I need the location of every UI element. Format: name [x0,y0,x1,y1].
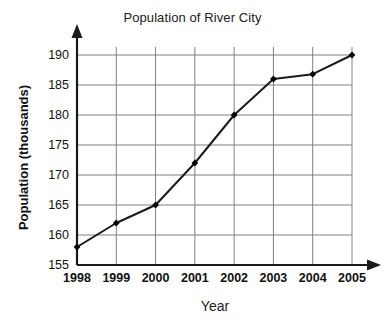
data-point-marker [349,52,356,59]
chart-container: Population of River City Population (tho… [0,0,385,329]
plot-area [0,0,385,329]
data-series-line [77,55,352,247]
horizontal-gridlines [77,55,352,235]
data-point-marker [309,71,316,78]
axis-lines [72,24,382,271]
vertical-gridlines [116,47,352,265]
